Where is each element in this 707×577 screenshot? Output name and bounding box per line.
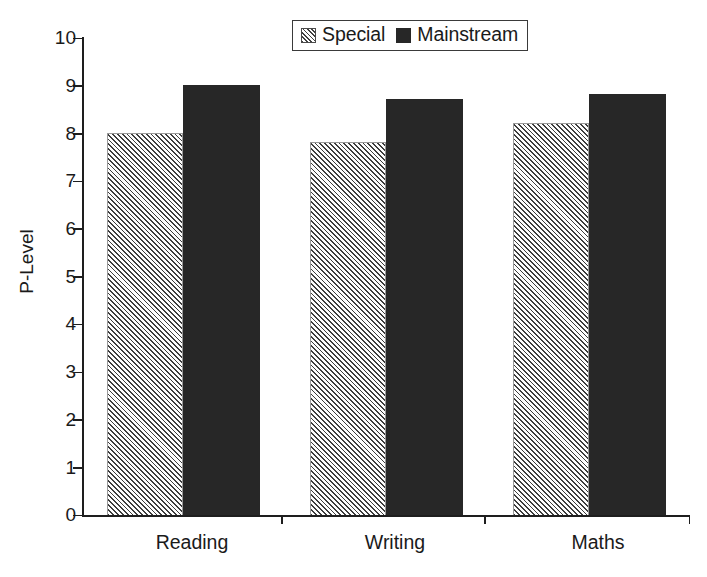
x-tick-sep-3 xyxy=(689,515,691,524)
bar-reading-special xyxy=(107,133,183,515)
y-tick-label-9: 9 xyxy=(36,76,76,95)
y-tick-label-5: 5 xyxy=(36,267,76,286)
bar-maths-mainstream xyxy=(589,94,666,515)
y-tick-label-4: 4 xyxy=(36,314,76,333)
x-tick-sep-2 xyxy=(484,515,486,524)
x-axis-line xyxy=(82,515,690,517)
bar-reading-mainstream xyxy=(183,85,260,515)
y-tick-label-8: 8 xyxy=(36,124,76,143)
y-tick-label-0: 0 xyxy=(36,505,76,524)
x-tick-sep-1 xyxy=(281,515,283,524)
y-tick-label-2: 2 xyxy=(36,410,76,429)
y-axis-title: P-Level xyxy=(17,212,36,312)
x-label-writing: Writing xyxy=(315,531,475,553)
bar-chart: Special Mainstream P-Level 10 9 8 7 6 5 … xyxy=(0,0,707,577)
y-tick-label-3: 3 xyxy=(36,362,76,381)
x-label-reading: Reading xyxy=(112,531,272,553)
y-tick-label-10: 10 xyxy=(36,28,76,47)
bar-maths-special xyxy=(513,123,589,515)
y-tick-label-7: 7 xyxy=(36,171,76,190)
bar-writing-special xyxy=(310,142,386,515)
x-label-maths: Maths xyxy=(518,531,678,553)
plot-area xyxy=(82,37,690,515)
y-tick-label-6: 6 xyxy=(36,219,76,238)
bar-writing-mainstream xyxy=(386,99,463,515)
y-tick-label-1: 1 xyxy=(36,458,76,477)
